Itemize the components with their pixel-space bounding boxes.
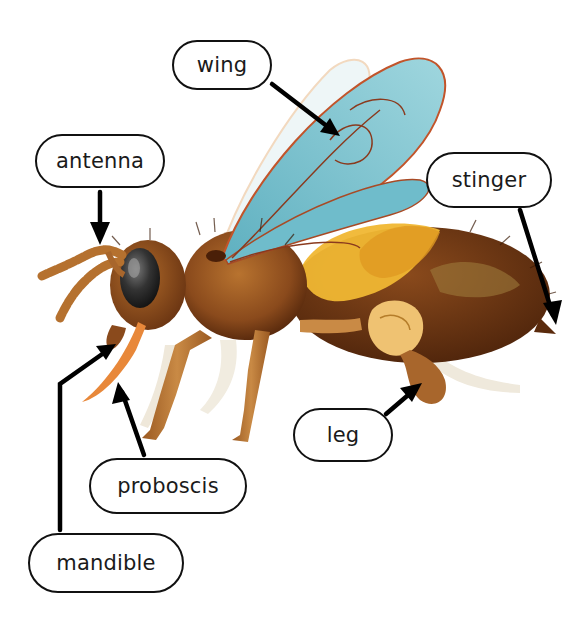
label-wing: wing [172,40,272,90]
label-mandible: mandible [28,533,184,593]
bee-illustration [0,0,587,620]
middle-leg [232,330,270,442]
label-stinger: stinger [426,152,552,208]
proboscis-arrow [122,392,144,455]
label-leg: leg [293,408,393,462]
bee-anatomy-diagram: wing antenna stinger leg proboscis mandi… [0,0,587,620]
label-proboscis: proboscis [89,458,247,514]
front-leg [142,330,212,440]
label-antenna: antenna [35,134,165,188]
